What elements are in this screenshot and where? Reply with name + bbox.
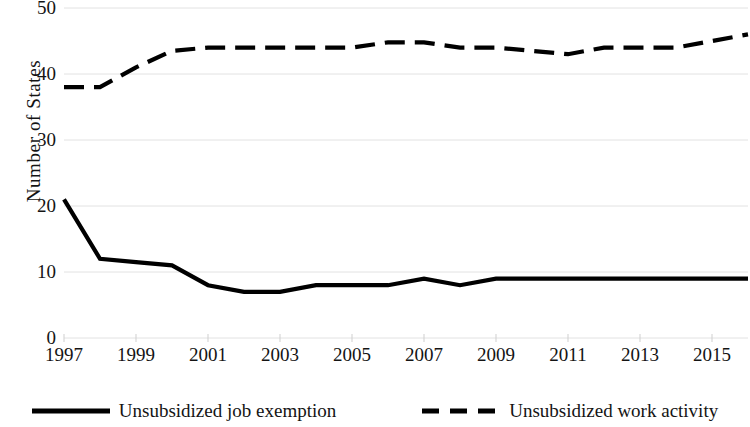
chart-legend: Unsubsidized job exemptionUnsubsidized w… <box>0 395 750 427</box>
legend-item: Unsubsidized work activity <box>422 400 718 422</box>
gridlines <box>64 8 748 338</box>
y-tick-label: 40 <box>14 64 56 83</box>
x-tick-label: 2007 <box>394 345 454 364</box>
y-tick-label: 10 <box>14 262 56 281</box>
x-tick-label: 2003 <box>250 345 310 364</box>
y-tick-label: 20 <box>14 196 56 215</box>
x-tick-label: 2011 <box>538 345 598 364</box>
x-axis-tick-labels: 1997199920012003200520072009201120132015 <box>64 345 748 373</box>
x-tick-label: 2015 <box>682 345 742 364</box>
line-chart: Number of States 01020304050 19971999200… <box>0 0 750 427</box>
plot-svg <box>64 8 748 338</box>
solid-line-icon <box>32 404 110 418</box>
x-tick-label: 2009 <box>466 345 526 364</box>
series-lines <box>64 34 748 291</box>
y-axis-tick-labels: 01020304050 <box>0 8 56 338</box>
series-line-2 <box>64 34 748 87</box>
x-tick-label: 2013 <box>610 345 670 364</box>
y-tick-label: 30 <box>14 130 56 149</box>
legend-label: Unsubsidized work activity <box>509 400 718 422</box>
x-tick-label: 1999 <box>106 345 166 364</box>
x-tick-label: 2001 <box>178 345 238 364</box>
legend-item: Unsubsidized job exemption <box>32 400 336 422</box>
plot-area <box>64 8 748 338</box>
legend-label: Unsubsidized job exemption <box>119 400 336 422</box>
x-tick-label: 2005 <box>322 345 382 364</box>
x-tick-label: 1997 <box>34 345 94 364</box>
series-line-1 <box>64 199 748 291</box>
y-tick-label: 50 <box>14 0 56 17</box>
dashed-line-icon <box>422 404 500 418</box>
